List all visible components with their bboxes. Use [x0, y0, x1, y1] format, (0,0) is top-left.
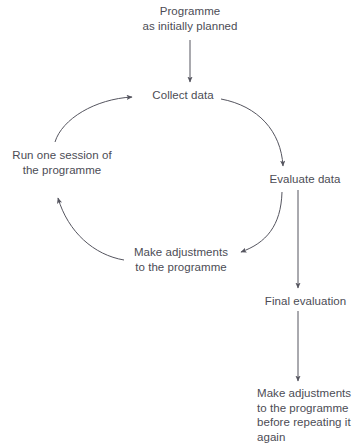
node-make-adjustments-to-the-programme: Make adjustments to the programme: [126, 245, 236, 274]
node-final-evaluation: Final evaluation: [256, 294, 355, 309]
edge-evaluate-data-to-make-adjustments: [241, 192, 282, 252]
node-make-adjustments-before-repeating: Make adjustments to the programme before…: [257, 386, 355, 444]
node-run-one-session-of-the-programme: Run one session of the programme: [0, 148, 124, 177]
edge-run-session-to-collect-data: [55, 97, 132, 142]
edge-make-adjustments-to-run-session: [58, 198, 124, 260]
node-collect-data: Collect data: [133, 88, 233, 103]
node-evaluate-data: Evaluate data: [256, 172, 354, 187]
edge-collect-data-to-evaluate-data: [221, 99, 283, 166]
node-programme-as-initially-planned: Programme as initially planned: [120, 4, 260, 33]
